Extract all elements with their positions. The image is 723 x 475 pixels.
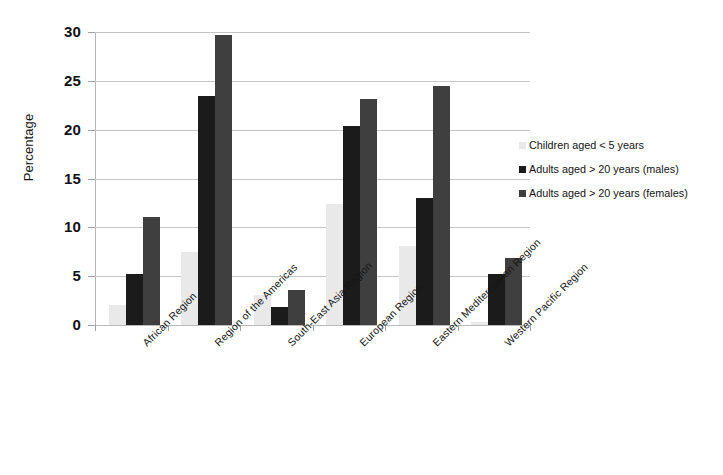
bar (471, 322, 488, 325)
bar (271, 307, 288, 325)
bar (433, 86, 450, 325)
bar (416, 198, 433, 325)
bar (360, 99, 377, 325)
legend-item: Adults aged > 20 years (females) (519, 181, 719, 205)
bar-group (109, 32, 160, 325)
legend-item: Children aged < 5 years (519, 133, 719, 157)
bar (288, 290, 305, 325)
y-axis-tick (88, 325, 95, 326)
y-axis-tick (88, 227, 95, 228)
y-axis-title: Percentage (21, 68, 36, 228)
y-axis-tick-label: 5 (17, 267, 81, 284)
bar (126, 274, 143, 325)
legend-swatch-icon (519, 142, 526, 149)
y-axis-tick-label: 30 (17, 23, 81, 40)
legend-label: Adults aged > 20 years (females) (529, 188, 688, 199)
y-axis-tick (88, 179, 95, 180)
y-axis-tick-label: 15 (17, 170, 81, 187)
y-axis-tick-label: 20 (17, 121, 81, 138)
legend-swatch-icon (519, 190, 526, 197)
chart-legend: Children aged < 5 yearsAdults aged > 20 … (519, 133, 719, 205)
bar (143, 217, 160, 325)
y-axis-tick (88, 130, 95, 131)
y-axis-tick-label: 25 (17, 72, 81, 89)
x-axis-tick (95, 325, 96, 331)
plot-area (95, 32, 530, 325)
bar-group (399, 32, 450, 325)
y-axis-tick (88, 81, 95, 82)
legend-label: Children aged < 5 years (529, 140, 644, 151)
y-axis-tick (88, 32, 95, 33)
bar-chart: Percentage 051015202530 African RegionRe… (0, 0, 723, 475)
legend-swatch-icon (519, 166, 526, 173)
y-axis-tick-label: 0 (17, 316, 81, 333)
y-axis-tick (88, 276, 95, 277)
legend-item: Adults aged > 20 years (males) (519, 157, 719, 181)
bar (215, 35, 232, 325)
bar-group (181, 32, 232, 325)
y-axis-tick-label: 10 (17, 218, 81, 235)
legend-label: Adults aged > 20 years (males) (529, 164, 679, 175)
bar (109, 305, 126, 325)
bar (198, 96, 215, 325)
